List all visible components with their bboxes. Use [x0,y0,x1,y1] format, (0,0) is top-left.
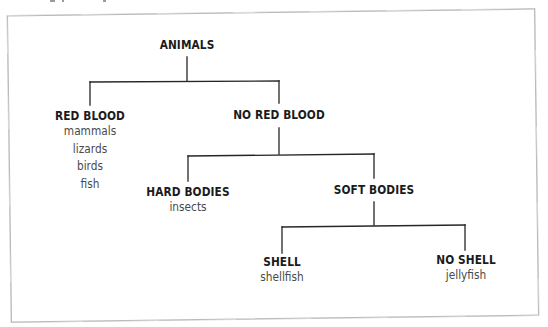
node-label: SOFT BODIES [334,183,414,197]
edge-animals-bar [90,81,279,82]
node-label: NO SHELL [436,253,495,267]
node-shell: SHELL shellfish [258,255,305,287]
node-item: lizards [55,141,125,159]
node-label: RED BLOOD [55,109,125,123]
edge-no-red-blood-bar [188,154,374,156]
node-label: SHELL [260,255,303,269]
node-item: insects [146,199,229,217]
node-label: ANIMALS [160,38,215,52]
node-item: fish [55,176,125,194]
node-no-red-blood: NO RED BLOOD [229,108,329,122]
node-hard-bodies: HARD BODIES insects [143,185,234,217]
node-label: NO RED BLOOD [233,108,325,122]
node-no-shell: NO SHELL jellyfish [434,253,499,285]
node-red-blood: RED BLOOD mammals lizards birds fish [52,109,128,193]
node-item: birds [55,158,125,176]
node-soft-bodies: SOFT BODIES [330,183,417,197]
node-item: mammals [55,123,125,141]
node-item: shellfish [260,269,303,287]
node-animals: ANIMALS [157,38,216,52]
node-label: HARD BODIES [146,185,229,199]
node-item: jellyfish [436,267,495,285]
